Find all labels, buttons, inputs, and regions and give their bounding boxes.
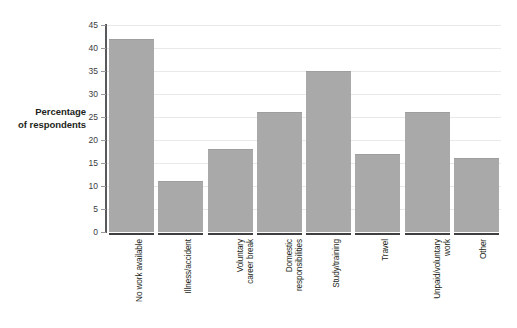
category-label-line: Travel: [381, 239, 391, 261]
category-label-line: Domestic: [285, 239, 295, 291]
y-axis-tick-label: 5: [72, 204, 98, 214]
category-label-line: work: [443, 239, 453, 299]
x-axis-category-label: Study/training: [332, 239, 346, 288]
x-axis-category-label: Other: [479, 239, 493, 259]
x-axis-category-label: Voluntarycareer break: [236, 239, 250, 284]
y-axis-tick: [101, 48, 106, 49]
y-axis-tick-label: 10: [72, 181, 98, 191]
category-label-line: Illness/accident: [184, 239, 194, 293]
y-axis-tick: [101, 186, 106, 187]
bar: [109, 39, 154, 232]
y-axis-tick: [101, 71, 106, 72]
y-axis-tick-label: 35: [72, 66, 98, 76]
category-label-line: Other: [479, 239, 489, 259]
bar-chart: Percentage of respondents 05101520253035…: [0, 0, 517, 328]
category-axis-rule: [454, 233, 499, 235]
y-axis-tick: [101, 117, 106, 118]
category-axis-rule: [109, 233, 154, 235]
x-axis-category-label: Travel: [381, 239, 395, 261]
category-label-line: career break: [246, 239, 256, 284]
bar: [257, 112, 302, 232]
y-axis-tick: [101, 140, 106, 141]
gridline: [107, 25, 501, 26]
y-axis-tick-label: 0: [72, 227, 98, 237]
x-axis-category-label: No work available: [135, 239, 149, 302]
category-label-line: Voluntary: [236, 239, 246, 284]
gridline: [107, 48, 501, 49]
category-label-line: Unpaid/voluntary: [433, 239, 443, 299]
bar: [355, 154, 400, 232]
category-axis-rule: [306, 233, 351, 235]
category-axis-rule: [355, 233, 400, 235]
gridline: [107, 71, 501, 72]
bar: [208, 149, 253, 232]
y-axis-tick: [101, 209, 106, 210]
bar: [306, 71, 351, 232]
y-axis-tick-label: 15: [72, 158, 98, 168]
y-axis-tick: [101, 232, 106, 233]
category-label-line: No work available: [135, 239, 145, 302]
y-axis-tick-label: 20: [72, 135, 98, 145]
y-axis-tick-label: 40: [72, 43, 98, 53]
y-axis-tick: [101, 163, 106, 164]
gridline: [107, 94, 501, 95]
bar: [405, 112, 450, 232]
y-axis-tick: [101, 94, 106, 95]
y-axis-tick-label: 45: [72, 20, 98, 30]
category-label-line: Study/training: [332, 239, 342, 288]
category-axis-rule: [208, 233, 253, 235]
category-label-line: responsibilities: [295, 239, 305, 291]
x-axis-category-label: Illness/accident: [184, 239, 198, 293]
x-axis-category-label: Domesticresponsibilities: [285, 239, 299, 291]
category-axis-rule: [158, 233, 203, 235]
y-axis-tick: [101, 25, 106, 26]
bar: [158, 181, 203, 232]
y-axis-tick-label: 30: [72, 89, 98, 99]
x-axis-category-label: Unpaid/voluntarywork: [433, 239, 447, 299]
bar: [454, 158, 499, 232]
plot-area: [107, 25, 501, 232]
y-axis-tick-label: 25: [72, 112, 98, 122]
category-axis-rule: [405, 233, 450, 235]
category-axis-rule: [257, 233, 302, 235]
